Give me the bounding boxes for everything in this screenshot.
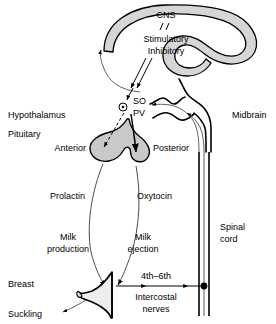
lactation-reflex-figure: CNS Stimulatory Inhibitory SO PV <box>0 0 276 324</box>
synapse-dot-icon <box>201 283 208 290</box>
midbrain-label: Midbrain <box>232 110 267 120</box>
suckling-label: Suckling <box>8 309 42 319</box>
cns-label: CNS <box>156 10 175 20</box>
oxytocin-pathway <box>118 166 139 285</box>
prolactin-label: Prolactin <box>50 191 85 201</box>
nipple-icon <box>77 292 82 298</box>
cns-to-hypothalamus-pathway <box>131 58 152 88</box>
spinal-cord-label-line2: cord <box>220 234 238 244</box>
hatch-marks-icon <box>160 23 169 30</box>
pv-label: PV <box>133 108 145 118</box>
milk-production-label-line2: production <box>47 244 89 254</box>
milk-ejection-label-line2: ejection <box>127 244 158 254</box>
brainstem-outline <box>150 79 211 152</box>
breast <box>77 272 112 318</box>
anterior-label: Anterior <box>54 143 86 153</box>
afferent-to-cns-pathway <box>100 50 140 92</box>
intercostal-nerves-label-line1: Intercostal <box>135 292 177 302</box>
nerve-level-label: 4th–6th <box>141 271 171 281</box>
spinal-cord-label-line1: Spinal <box>220 222 245 232</box>
breast-label: Breast <box>8 279 35 289</box>
prolactin-pathway <box>89 164 105 286</box>
pituitary-label: Pituitary <box>8 129 41 139</box>
inhibitory-label: Inhibitory <box>148 46 185 56</box>
milk-ejection-label-line1: Milk <box>135 232 151 242</box>
hypothalamus-label: Hypothalamus <box>8 110 66 120</box>
pituitary-gland <box>90 119 149 162</box>
stimulatory-label: Stimulatory <box>143 34 189 44</box>
posterior-label: Posterior <box>153 143 189 153</box>
intercostal-nerves-label-line2: nerves <box>142 304 170 314</box>
milk-production-label-line1: Milk <box>60 232 76 242</box>
supraoptic-paraventricular-nuclei <box>119 103 127 111</box>
suckling-arrow <box>63 300 86 312</box>
oxytocin-label: Oxytocin <box>137 191 172 201</box>
so-label: SO <box>133 96 146 106</box>
